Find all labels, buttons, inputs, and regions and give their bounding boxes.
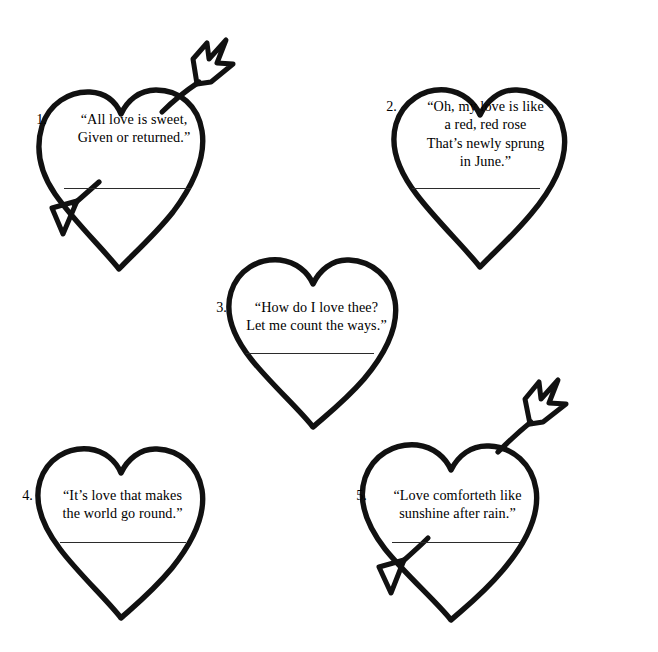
quote-line: a red, red rose [404, 115, 567, 133]
quote-line: sunshine after rain.” [374, 504, 541, 522]
item-number-4: 4. [22, 486, 33, 504]
answer-blank-3[interactable] [246, 353, 374, 354]
quote-line: the world go round.” [40, 504, 205, 522]
answer-blank-4[interactable] [60, 542, 186, 543]
quote-line: 4.“It’s love that makes [40, 486, 205, 504]
item-number-1: 1. [36, 110, 47, 128]
quote-text: “Love comforteth like [393, 487, 521, 503]
heart-quote-5: 5.“Love comforteth like sunshine after r… [374, 486, 541, 523]
quote-line: 3.“How do I love thee? [234, 298, 399, 316]
heart-card-5[interactable]: 5.“Love comforteth like sunshine after r… [348, 418, 563, 630]
quote-line: 5.“Love comforteth like [374, 486, 541, 504]
quote-line: That’s newly sprung [404, 134, 567, 152]
quote-line: Let me count the ways.” [234, 316, 399, 334]
item-number-3: 3. [216, 298, 227, 316]
heart-outline-4 [22, 418, 220, 630]
quote-line: Given or returned.” [54, 128, 214, 146]
answer-blank-1[interactable] [64, 188, 191, 189]
answer-blank-5[interactable] [392, 542, 520, 543]
item-number-2: 2. [386, 97, 397, 115]
heart-card-1[interactable]: 1.“All love is sweet, Given or returned.… [26, 42, 236, 282]
quote-line: in June.” [404, 152, 567, 170]
quote-line: 1.“All love is sweet, [54, 110, 214, 128]
worksheet-page: 1.“All love is sweet, Given or returned.… [0, 0, 658, 652]
quote-text: “All love is sweet, [81, 111, 188, 127]
answer-blank-2[interactable] [412, 188, 540, 189]
heart-quote-4: 4.“It’s love that makes the world go rou… [40, 486, 205, 523]
quote-text: “Oh, my love is like [427, 98, 544, 114]
heart-quote-3: 3.“How do I love thee? Let me count the … [234, 298, 399, 335]
quote-text: “How do I love thee? [255, 299, 378, 315]
heart-quote-2: 2.“Oh, my love is like a red, red rose T… [404, 97, 567, 171]
item-number-5: 5. [356, 486, 367, 504]
quote-text: “It’s love that makes [63, 487, 182, 503]
heart-quote-1: 1.“All love is sweet, Given or returned.… [54, 110, 214, 147]
quote-line: 2.“Oh, my love is like [404, 97, 567, 115]
heart-card-4[interactable]: 4.“It’s love that makes the world go rou… [22, 418, 220, 630]
